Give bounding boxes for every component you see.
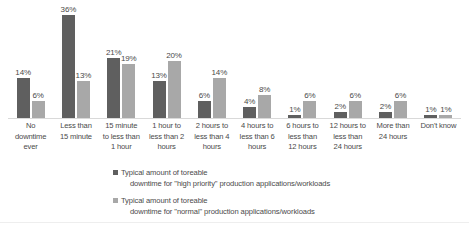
- category-label: Don't know: [412, 121, 465, 132]
- bar[interactable]: [258, 95, 271, 118]
- category-label-line: 24 hours: [321, 142, 374, 153]
- legend-label: Typical amount of toreabledowntime for "…: [121, 168, 330, 189]
- bar-wrapper: 13%: [153, 4, 166, 118]
- legend-label-line1: Typical amount of toreable: [121, 168, 330, 179]
- bar-value-label: 6%: [338, 91, 372, 100]
- bar[interactable]: [122, 64, 135, 118]
- bar-value-label: 6%: [21, 91, 55, 100]
- bar-wrapper: 36%: [62, 4, 75, 118]
- bar-wrapper: 2%: [334, 4, 347, 118]
- bar[interactable]: [394, 101, 407, 118]
- bar-wrapper: 6%: [198, 4, 211, 118]
- chart-legend: Typical amount of toreabledowntime for "…: [113, 168, 463, 224]
- bar-group: 2%6%: [325, 4, 370, 118]
- bar[interactable]: [213, 78, 226, 118]
- bar-wrapper: 1%: [424, 4, 437, 118]
- bar-wrapper: 6%: [303, 4, 316, 118]
- bar-group: 36%13%: [53, 4, 98, 118]
- legend-swatch-icon: [113, 170, 118, 175]
- legend-swatch-icon: [113, 198, 118, 203]
- bar[interactable]: [168, 61, 181, 118]
- bar[interactable]: [303, 101, 316, 118]
- category-axis-line: [8, 118, 461, 119]
- bar-value-label: 20%: [157, 51, 191, 60]
- bar-group: 13%20%: [144, 4, 189, 118]
- bar-group: 1%6%: [280, 4, 325, 118]
- bar-wrapper: 14%: [213, 4, 226, 118]
- bar-group: 2%6%: [370, 4, 415, 118]
- bar[interactable]: [198, 101, 211, 118]
- bar[interactable]: [77, 81, 90, 118]
- bar-group: 1%1%: [416, 4, 461, 118]
- legend-entry[interactable]: Typical amount of toreabledowntime for "…: [113, 168, 463, 189]
- bar[interactable]: [62, 15, 75, 118]
- bar-group: 14%6%: [8, 4, 53, 118]
- bar[interactable]: [349, 101, 362, 118]
- bar-value-label: 1%: [429, 105, 463, 114]
- bar-value-label: 19%: [112, 54, 146, 63]
- bar[interactable]: [153, 81, 166, 118]
- plot-area: 14%6%36%13%21%19%13%20%6%14%4%8%1%6%2%6%…: [8, 4, 461, 118]
- bar-wrapper: 6%: [32, 4, 45, 118]
- legend-entry[interactable]: Typical amount of toreabledowntime for "…: [113, 196, 463, 217]
- bar-wrapper: 14%: [17, 4, 30, 118]
- category-label-line: ever: [4, 142, 57, 153]
- bar-value-label: 8%: [248, 85, 282, 94]
- bar-value-label: 13%: [66, 71, 100, 80]
- bar-wrapper: 2%: [379, 4, 392, 118]
- category-axis-labels: NodowntimeeverLess than15 minute15 minut…: [8, 121, 461, 161]
- bar-value-label: 14%: [202, 68, 236, 77]
- bar-chart: 14%6%36%13%21%19%13%20%6%14%4%8%1%6%2%6%…: [0, 0, 469, 233]
- bar-value-label: 6%: [293, 91, 327, 100]
- bar-wrapper: 6%: [394, 4, 407, 118]
- bar-wrapper: 6%: [349, 4, 362, 118]
- bar[interactable]: [107, 58, 120, 118]
- bar-group: 21%19%: [99, 4, 144, 118]
- bar-wrapper: 1%: [288, 4, 301, 118]
- bar-wrapper: 20%: [168, 4, 181, 118]
- bar-wrapper: 19%: [122, 4, 135, 118]
- bar-wrapper: 1%: [439, 4, 452, 118]
- bar-group: 6%14%: [189, 4, 234, 118]
- category-label-line: 24 hours: [366, 132, 419, 143]
- bar-wrapper: 8%: [258, 4, 271, 118]
- bar-wrapper: 4%: [243, 4, 256, 118]
- bar[interactable]: [32, 101, 45, 118]
- bar-group: 4%8%: [235, 4, 280, 118]
- legend-label: Typical amount of toreabledowntime for "…: [121, 196, 315, 217]
- legend-label-line1: Typical amount of toreable: [121, 196, 315, 207]
- bar-wrapper: 13%: [77, 4, 90, 118]
- bar[interactable]: [243, 107, 256, 118]
- legend-label-line2: downtime for "normal" production applica…: [121, 207, 315, 218]
- bar-value-label: 6%: [384, 91, 418, 100]
- legend-label-line2: downtime for "high priority" production …: [121, 179, 330, 190]
- bottom-divider: [0, 222, 469, 223]
- category-label-line: Don't know: [412, 121, 465, 132]
